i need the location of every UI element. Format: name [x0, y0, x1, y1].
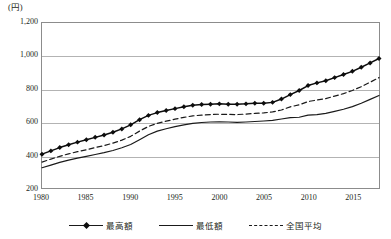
series-marker [40, 152, 45, 157]
x-axis-tick-label: 2010 [289, 193, 329, 202]
series-marker [155, 110, 160, 115]
legend-item-label: 全国平均 [286, 221, 322, 231]
legend-item-label: 最高額 [106, 221, 133, 231]
series-marker [243, 101, 248, 106]
series-marker [270, 100, 275, 105]
chart-legend: 最高額最低額全国平均 [0, 216, 391, 236]
legend-item-最低額[interactable]: 最低額 [159, 221, 223, 231]
legend-item-全国平均[interactable]: 全国平均 [249, 221, 322, 231]
series-marker [66, 142, 71, 147]
series-marker [226, 102, 231, 107]
series-marker [119, 126, 124, 131]
legend-swatch-icon [249, 221, 283, 231]
legend-swatch-icon [159, 221, 193, 231]
x-axis-tick-label: 2005 [244, 193, 284, 202]
series-marker [261, 101, 266, 106]
series-marker [368, 60, 373, 65]
series-marker [377, 56, 382, 61]
y-axis-tick-label: 1,200 [4, 18, 38, 26]
series-marker [217, 101, 222, 106]
legend-diamond-marker-icon [83, 222, 90, 229]
series-marker [199, 102, 204, 107]
series-marker [110, 130, 115, 135]
series-marker [93, 135, 98, 140]
series-marker [146, 113, 151, 118]
series-marker [164, 108, 169, 113]
series-marker [323, 78, 328, 83]
series-marker [75, 140, 80, 145]
y-axis-tick-label: 800 [4, 85, 38, 93]
x-axis-tick-label: 1990 [110, 193, 150, 202]
x-axis-tick-label: 2015 [333, 193, 373, 202]
legend-line-icon [249, 225, 283, 226]
series-layer [42, 23, 379, 188]
series-marker [190, 103, 195, 108]
legend-line-icon [159, 225, 193, 226]
series-marker [359, 65, 364, 70]
series-marker [181, 104, 186, 109]
y-axis-tick-label: 1,000 [4, 51, 38, 59]
series-marker [235, 102, 240, 107]
x-axis-tick-label: 1980 [21, 193, 61, 202]
series-marker [332, 75, 337, 80]
series-line-全国平均 [42, 78, 379, 162]
series-marker [350, 69, 355, 74]
legend-item-最高額[interactable]: 最高額 [69, 221, 133, 231]
y-axis-tick-label: 600 [4, 118, 38, 126]
series-marker [48, 148, 53, 153]
series-marker [173, 106, 178, 111]
series-marker [279, 97, 284, 102]
series-marker [57, 145, 62, 150]
series-marker [288, 92, 293, 97]
legend-item-label: 最低額 [196, 221, 223, 231]
series-marker [208, 102, 213, 107]
x-axis-tick-label: 2000 [199, 193, 239, 202]
series-marker [314, 80, 319, 85]
plot-area [41, 22, 380, 189]
series-marker [102, 133, 107, 138]
legend-swatch-icon [69, 221, 103, 231]
y-axis-tick-label: 400 [4, 152, 38, 160]
series-marker [252, 101, 257, 106]
x-axis-tick-label: 1995 [155, 193, 195, 202]
x-axis-tick-label: 1985 [66, 193, 106, 202]
series-marker [84, 137, 89, 142]
series-marker [341, 72, 346, 77]
y-axis-unit-label: (円) [8, 2, 23, 12]
y-axis-tick-label: 200 [4, 185, 38, 193]
minimum-wage-line-chart: (円) 1,2001,000800600400200 1980198519901… [0, 0, 391, 239]
